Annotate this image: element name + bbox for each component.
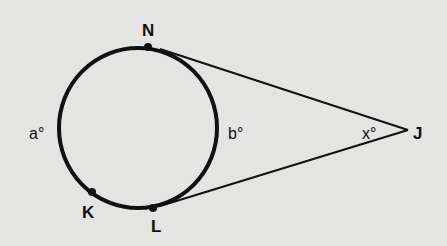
arc-label-b: b° (228, 125, 243, 142)
arc-label-a: a° (29, 125, 44, 142)
label-N: N (142, 21, 154, 40)
point-K (88, 188, 96, 196)
background (0, 0, 447, 246)
point-N (144, 43, 152, 51)
label-L: L (151, 217, 161, 236)
angle-label-x: x° (362, 125, 376, 142)
point-L (149, 204, 157, 212)
label-J: J (413, 124, 422, 143)
label-K: K (82, 203, 95, 222)
geometry-diagram: N K L J a° b° x° (0, 0, 447, 246)
